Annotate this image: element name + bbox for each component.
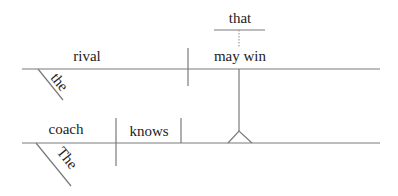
main-clause-modifier-text: The: [54, 144, 81, 172]
sentence-diagram: the rival may win that The coach knows: [0, 0, 398, 196]
main-clause-subject-text: coach: [49, 121, 84, 137]
main-clause-verb-text: knows: [129, 123, 168, 139]
noun-clause-verb-text: may win: [214, 48, 267, 64]
pedestal-base: [228, 131, 252, 143]
connector-text: that: [229, 10, 252, 26]
noun-clause-subject-text: rival: [73, 48, 101, 64]
noun-clause-modifier-text: the: [48, 70, 72, 95]
